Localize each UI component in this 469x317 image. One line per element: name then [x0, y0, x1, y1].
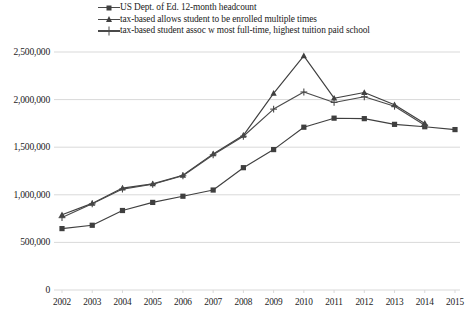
y-tick-label: 0 — [45, 285, 50, 295]
data-point-square — [90, 223, 95, 228]
y-tick-label: 2,000,000 — [13, 95, 50, 105]
data-point-square — [271, 147, 276, 152]
data-point-square — [120, 208, 125, 213]
data-point-cross — [300, 89, 307, 96]
data-point-square — [211, 187, 216, 192]
data-point-cross — [149, 181, 156, 188]
data-point-cross — [59, 214, 66, 221]
data-point-square — [362, 116, 367, 121]
series-line — [62, 92, 425, 218]
y-tick-label: 2,500,000 — [13, 47, 50, 57]
data-point-cross — [119, 186, 126, 193]
y-tick-label: 1,500,000 — [13, 142, 50, 152]
data-point-square — [452, 127, 457, 132]
y-tick-label: 500,000 — [20, 237, 50, 247]
series-lines — [62, 56, 455, 229]
data-point-square — [180, 194, 185, 199]
data-point-square — [331, 116, 336, 121]
data-point-triangle — [301, 53, 307, 59]
series-markers — [59, 53, 458, 232]
y-tick-label: 1,000,000 — [13, 190, 50, 200]
data-point-square — [392, 122, 397, 127]
data-point-square — [150, 200, 155, 205]
data-point-square — [301, 125, 306, 130]
data-point-square — [59, 226, 64, 231]
gridlines — [54, 52, 460, 293]
x-tick-label: 2015 — [435, 297, 469, 307]
data-point-cross — [89, 200, 96, 207]
data-point-square — [241, 165, 246, 170]
